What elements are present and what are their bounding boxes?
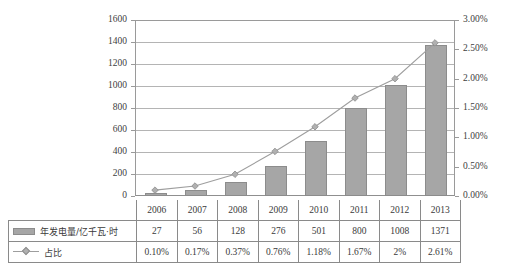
- line-marker-swatch-icon: [13, 248, 39, 256]
- table-cell: 128: [218, 221, 259, 242]
- table-cell: 0.17%: [177, 242, 218, 263]
- table-row: 年发电量/亿千瓦·时 27 56 128 276 501 800 1008 13…: [9, 221, 461, 242]
- table-header-cell: 2012: [380, 200, 421, 221]
- table-cell: 0.37%: [218, 242, 259, 263]
- table-cell: 0.10%: [137, 242, 178, 263]
- table-cell: 56: [177, 221, 218, 242]
- series-label-share: 占比: [44, 248, 62, 258]
- table-cell: 800: [339, 221, 380, 242]
- chart-plot-region: 02004006008001000120014001600 0.00%0.50%…: [0, 0, 516, 200]
- table-header-cell: 2009: [258, 200, 299, 221]
- table-cell: 2.61%: [420, 242, 461, 263]
- table-header-cell: 2013: [420, 200, 461, 221]
- legend-row-annual-generation: 年发电量/亿千瓦·时: [9, 221, 137, 242]
- chart-page: 02004006008001000120014001600 0.00%0.50%…: [0, 0, 516, 271]
- table-header-row: 2006 2007 2008 2009 2010 2011 2012 2013: [9, 200, 461, 221]
- bar-swatch-icon: [13, 228, 35, 235]
- table-corner-cell: [9, 200, 137, 221]
- table-header-cell: 2007: [177, 200, 218, 221]
- table-cell: 0.76%: [258, 242, 299, 263]
- line-marker-diamond-icon: [192, 183, 199, 190]
- table-cell: 276: [258, 221, 299, 242]
- share-line-path: [155, 43, 435, 190]
- table-cell: 501: [299, 221, 340, 242]
- table-cell: 1.67%: [339, 242, 380, 263]
- legend-row-share: 占比: [9, 242, 137, 263]
- table-cell: 27: [137, 221, 178, 242]
- chart-data-table: 2006 2007 2008 2009 2010 2011 2012 2013 …: [8, 200, 461, 263]
- table-header-cell: 2011: [339, 200, 380, 221]
- line-marker-diamond-icon: [232, 171, 239, 178]
- table-cell: 1371: [420, 221, 461, 242]
- table-cell: 1.18%: [299, 242, 340, 263]
- table-header-cell: 2006: [137, 200, 178, 221]
- table-cell: 2%: [380, 242, 421, 263]
- line-marker-diamond-icon: [272, 148, 279, 155]
- table-row: 占比 0.10% 0.17% 0.37% 0.76% 1.18% 1.67% 2…: [9, 242, 461, 263]
- table-header-cell: 2010: [299, 200, 340, 221]
- table-header-cell: 2008: [218, 200, 259, 221]
- line-marker-diamond-icon: [152, 187, 159, 194]
- series-label-annual-generation: 年发电量/亿千瓦·时: [40, 227, 118, 237]
- line-series-share: [0, 0, 516, 200]
- table-cell: 1008: [380, 221, 421, 242]
